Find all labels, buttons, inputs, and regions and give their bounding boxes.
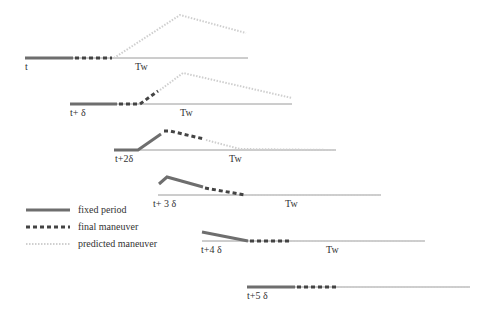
timeline-row-0: t Tw <box>25 15 248 72</box>
final-maneuver-segment <box>205 188 245 195</box>
predicted-maneuver-path <box>114 15 246 58</box>
legend-item-predicted-maneuver: predicted maneuver <box>26 238 158 249</box>
fixed-period-segment <box>202 232 248 241</box>
predicted-maneuver-path <box>160 73 292 98</box>
time-label: t+2δ <box>115 153 133 164</box>
timeline-row-1: t+ δ Tw <box>70 73 292 118</box>
window-label: Tw <box>326 244 339 255</box>
timeline-row-2: t+2δ Tw <box>114 131 336 164</box>
final-maneuver-segment <box>119 91 158 104</box>
predicted-maneuver-path <box>206 140 336 150</box>
fixed-period-segment <box>114 134 161 150</box>
receding-horizon-diagram: t Tw t+ δ Tw t+2δ Tw t+ 3 δ Tw t+4 δ Tw <box>0 0 492 320</box>
time-label: t+ 3 δ <box>153 198 176 209</box>
legend-item-fixed-period: fixed period <box>26 204 127 215</box>
timeline-row-5: t+5 δ <box>247 287 470 301</box>
window-label: Tw <box>229 153 242 164</box>
timeline-row-3: t+ 3 δ Tw <box>153 177 381 209</box>
time-label: t+5 δ <box>247 290 268 301</box>
legend-label: final maneuver <box>78 221 139 232</box>
window-label: Tw <box>180 107 193 118</box>
legend-label: predicted maneuver <box>78 238 158 249</box>
final-maneuver-segment <box>164 131 204 139</box>
timeline-row-4: t+4 δ Tw <box>201 232 425 255</box>
window-label: Tw <box>285 198 298 209</box>
time-label: t <box>25 61 28 72</box>
time-label: t+4 δ <box>201 244 222 255</box>
legend-item-final-maneuver: final maneuver <box>26 221 139 232</box>
legend-label: fixed period <box>78 204 127 215</box>
time-label: t+ δ <box>70 107 86 118</box>
fixed-period-segment <box>159 177 203 187</box>
legend: fixed period final maneuver predicted ma… <box>26 204 158 249</box>
window-label: Tw <box>135 61 148 72</box>
